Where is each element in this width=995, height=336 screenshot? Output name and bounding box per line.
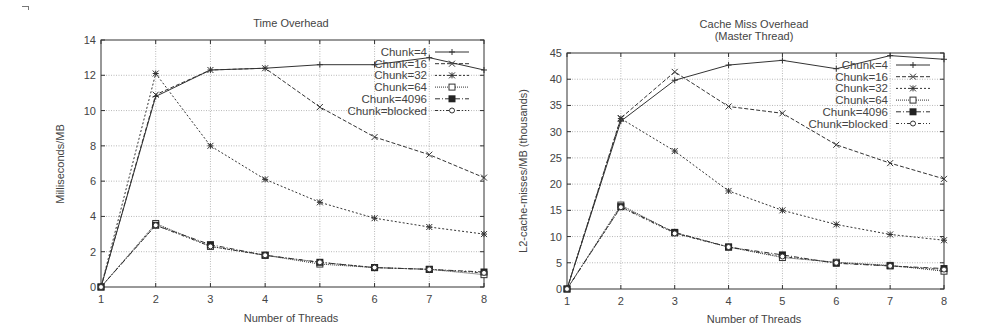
legend-label: Chunk=16 bbox=[374, 58, 427, 70]
plus-marker-icon bbox=[910, 62, 916, 68]
star-marker-icon bbox=[372, 215, 378, 221]
filled-square-marker-icon bbox=[910, 108, 917, 115]
x-tick-label: 2 bbox=[153, 293, 159, 305]
legend-item: Chunk=32 bbox=[835, 82, 930, 94]
y-tick-label: 14 bbox=[84, 34, 96, 46]
legend-label: Chunk=64 bbox=[374, 81, 427, 93]
legend-item: Chunk=64 bbox=[835, 94, 930, 106]
legend-label: Chunk=4096 bbox=[822, 106, 888, 118]
y-tick-label: 35 bbox=[550, 99, 562, 111]
plus-marker-icon bbox=[941, 56, 947, 62]
open-circle-marker-icon bbox=[427, 267, 432, 272]
open-circle-marker-icon bbox=[888, 263, 893, 268]
legend-label: Chunk=blocked bbox=[347, 105, 427, 117]
open-circle-marker-icon bbox=[153, 223, 158, 228]
series-chunk-4096 bbox=[564, 203, 948, 292]
open-circle-marker-icon bbox=[263, 253, 268, 258]
open-square-marker-icon bbox=[449, 84, 455, 90]
legend-item: Chunk=4 bbox=[381, 46, 469, 58]
star-marker-icon bbox=[449, 72, 455, 78]
series-chunk-blocked bbox=[99, 223, 487, 290]
legend: Chunk=4Chunk=16Chunk=32Chunk=64Chunk=409… bbox=[347, 46, 469, 117]
open-circle-marker-icon bbox=[208, 244, 213, 249]
series-chunk-16 bbox=[98, 65, 487, 290]
x-tick-label: 2 bbox=[618, 295, 624, 307]
series-chunk-64 bbox=[564, 202, 947, 292]
left-y-axis-label: Milliseconds/MB bbox=[54, 124, 66, 203]
y-tick-label: 0 bbox=[90, 281, 96, 293]
x-tick-label: 5 bbox=[779, 295, 785, 307]
open-circle-marker-icon bbox=[942, 267, 947, 272]
x-tick-label: 1 bbox=[98, 293, 104, 305]
star-marker-icon bbox=[317, 199, 323, 205]
legend-label: Chunk=blocked bbox=[808, 118, 888, 130]
series-chunk-4 bbox=[564, 53, 947, 292]
plus-marker-icon bbox=[426, 55, 432, 61]
open-circle-marker-icon bbox=[726, 245, 731, 250]
figure: Time Overhead Milliseconds/MB Number of … bbox=[0, 0, 995, 336]
right-chart-plot: 05101520253035404512345678Chunk=4Chunk=1… bbox=[550, 47, 948, 307]
legend-item: Chunk=16 bbox=[374, 58, 469, 70]
star-marker-icon bbox=[262, 176, 268, 182]
legend-item: Chunk=blocked bbox=[808, 118, 930, 130]
plus-marker-icon bbox=[481, 67, 487, 73]
open-circle-marker-icon bbox=[834, 260, 839, 265]
open-circle-marker-icon bbox=[672, 231, 677, 236]
legend-item: Chunk=64 bbox=[374, 81, 469, 93]
x-tick-label: 3 bbox=[672, 295, 678, 307]
x-tick-label: 8 bbox=[941, 295, 947, 307]
star-marker-icon bbox=[618, 116, 624, 122]
star-marker-icon bbox=[426, 224, 432, 230]
open-circle-marker-icon bbox=[450, 108, 455, 113]
star-marker-icon bbox=[887, 231, 893, 237]
y-tick-label: 6 bbox=[90, 175, 96, 187]
legend-label: Chunk=32 bbox=[374, 69, 427, 81]
star-marker-icon bbox=[910, 85, 916, 91]
right-y-axis-label: L2-cache-misses/MB (thousands) bbox=[517, 89, 529, 253]
y-tick-label: 8 bbox=[90, 140, 96, 152]
y-tick-label: 10 bbox=[84, 105, 96, 117]
x-tick-label: 5 bbox=[317, 293, 323, 305]
y-tick-label: 5 bbox=[556, 257, 562, 269]
plus-marker-icon bbox=[779, 57, 785, 63]
plus-marker-icon bbox=[317, 62, 323, 68]
star-marker-icon bbox=[207, 143, 213, 149]
legend: Chunk=4Chunk=16Chunk=32Chunk=64Chunk=409… bbox=[808, 59, 930, 130]
legend-label: Chunk=16 bbox=[835, 71, 888, 83]
star-marker-icon bbox=[481, 231, 487, 237]
y-tick-label: 2 bbox=[90, 246, 96, 258]
plus-marker-icon bbox=[726, 62, 732, 68]
legend-label: Chunk=4 bbox=[381, 46, 428, 58]
legend-item: Chunk=4096 bbox=[361, 93, 469, 105]
legend-item: Chunk=4 bbox=[842, 59, 930, 71]
y-tick-label: 4 bbox=[90, 210, 96, 222]
open-circle-marker-icon bbox=[372, 265, 377, 270]
open-circle-marker-icon bbox=[780, 254, 785, 259]
star-marker-icon bbox=[779, 207, 785, 213]
y-tick-label: 0 bbox=[556, 283, 562, 295]
x-tick-label: 1 bbox=[564, 295, 570, 307]
y-tick-label: 30 bbox=[550, 126, 562, 138]
legend-label: Chunk=32 bbox=[835, 82, 888, 94]
star-marker-icon bbox=[153, 71, 159, 77]
x-tick-label: 7 bbox=[426, 293, 432, 305]
series-chunk-16 bbox=[564, 69, 947, 292]
open-circle-marker-icon bbox=[618, 205, 623, 210]
right-chart-title: Cache Miss Overhead bbox=[700, 18, 809, 30]
y-tick-label: 20 bbox=[550, 178, 562, 190]
legend-label: Chunk=64 bbox=[835, 94, 888, 106]
cross-marker-icon bbox=[833, 142, 839, 148]
series-chunk-64 bbox=[98, 220, 487, 290]
open-circle-marker-icon bbox=[911, 121, 916, 126]
left-x-axis-label: Number of Threads bbox=[244, 312, 339, 324]
right-x-axis-label: Number of Threads bbox=[707, 313, 802, 325]
x-tick-label: 6 bbox=[372, 293, 378, 305]
open-circle-marker-icon bbox=[565, 287, 570, 292]
y-tick-label: 25 bbox=[550, 152, 562, 164]
star-marker-icon bbox=[941, 237, 947, 243]
legend-item: Chunk=blocked bbox=[347, 105, 469, 117]
y-tick-label: 10 bbox=[550, 231, 562, 243]
y-tick-label: 40 bbox=[550, 73, 562, 85]
star-marker-icon bbox=[672, 148, 678, 154]
legend-item: Chunk=32 bbox=[374, 69, 469, 81]
